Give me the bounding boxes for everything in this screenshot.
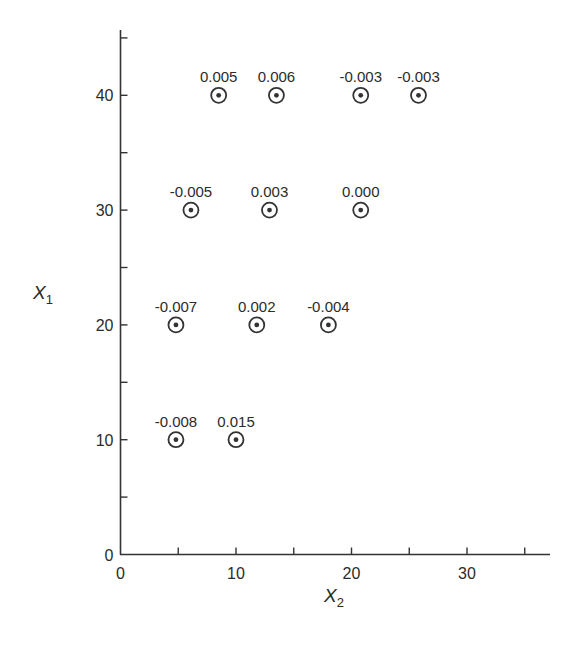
data-point: 0.005 (200, 68, 238, 103)
point-value-label: -0.007 (155, 298, 198, 315)
data-point: -0.007 (155, 298, 198, 333)
marker-center-dot (234, 437, 239, 442)
point-value-label: 0.006 (258, 68, 296, 85)
point-value-label: -0.003 (397, 68, 440, 85)
data-point: 0.003 (251, 183, 289, 218)
data-points: 0.0050.006-0.003-0.003-0.0050.0030.000-0… (155, 68, 440, 447)
point-value-label: -0.004 (307, 298, 350, 315)
data-point: -0.008 (155, 413, 198, 448)
y-tick-label: 0 (105, 547, 114, 564)
x-tick-label: 20 (343, 565, 361, 582)
scatter-chart: 0102030 010203040 0.0050.006-0.003-0.003… (0, 0, 580, 647)
x-tick-label: 30 (458, 565, 476, 582)
point-value-label: -0.008 (155, 413, 198, 430)
point-value-label: 0.003 (251, 183, 289, 200)
x-tick-label: 0 (116, 565, 125, 582)
point-value-label: 0.015 (217, 413, 255, 430)
x-axis-title-subscript: 2 (337, 595, 344, 610)
marker-center-dot (174, 437, 179, 442)
marker-center-dot (326, 323, 331, 328)
y-tick-label: 10 (96, 432, 114, 449)
y-ticks: 010203040 (96, 38, 128, 564)
y-tick-label: 40 (96, 87, 114, 104)
marker-center-dot (358, 208, 363, 213)
x-axis-title: X2 (323, 585, 344, 610)
point-value-label: -0.005 (170, 183, 213, 200)
data-point: -0.005 (170, 183, 213, 218)
point-value-label: -0.003 (339, 68, 382, 85)
y-tick-label: 20 (96, 317, 114, 334)
marker-center-dot (174, 323, 179, 328)
data-point: 0.015 (217, 413, 255, 448)
data-point: 0.006 (258, 68, 296, 103)
data-point: 0.000 (342, 183, 380, 218)
y-axis-title: X1 (32, 282, 53, 307)
data-point: -0.004 (307, 298, 350, 333)
data-point: -0.003 (339, 68, 382, 103)
y-axis-title-subscript: 1 (46, 292, 53, 307)
data-point: -0.003 (397, 68, 440, 103)
marker-center-dot (358, 93, 363, 98)
x-tick-label: 10 (227, 565, 245, 582)
point-value-label: 0.005 (200, 68, 238, 85)
data-point: 0.002 (238, 298, 276, 333)
marker-center-dot (416, 93, 421, 98)
x-ticks: 0102030 (116, 548, 525, 582)
marker-center-dot (216, 93, 221, 98)
marker-center-dot (267, 208, 272, 213)
marker-center-dot (189, 208, 194, 213)
y-tick-label: 30 (96, 202, 114, 219)
point-value-label: 0.000 (342, 183, 380, 200)
point-value-label: 0.002 (238, 298, 276, 315)
marker-center-dot (274, 93, 279, 98)
marker-center-dot (254, 323, 259, 328)
axes (120, 30, 550, 555)
